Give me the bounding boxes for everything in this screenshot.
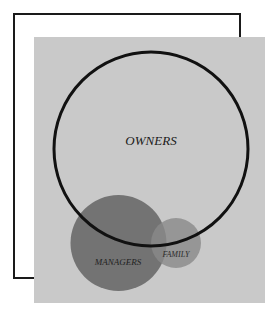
owners-label: OWNERS bbox=[125, 133, 177, 148]
family-label: FAMILY bbox=[162, 250, 191, 259]
venn-diagram: OWNERS MANAGERS FAMILY bbox=[0, 0, 273, 314]
managers-label: MANAGERS bbox=[94, 257, 142, 267]
